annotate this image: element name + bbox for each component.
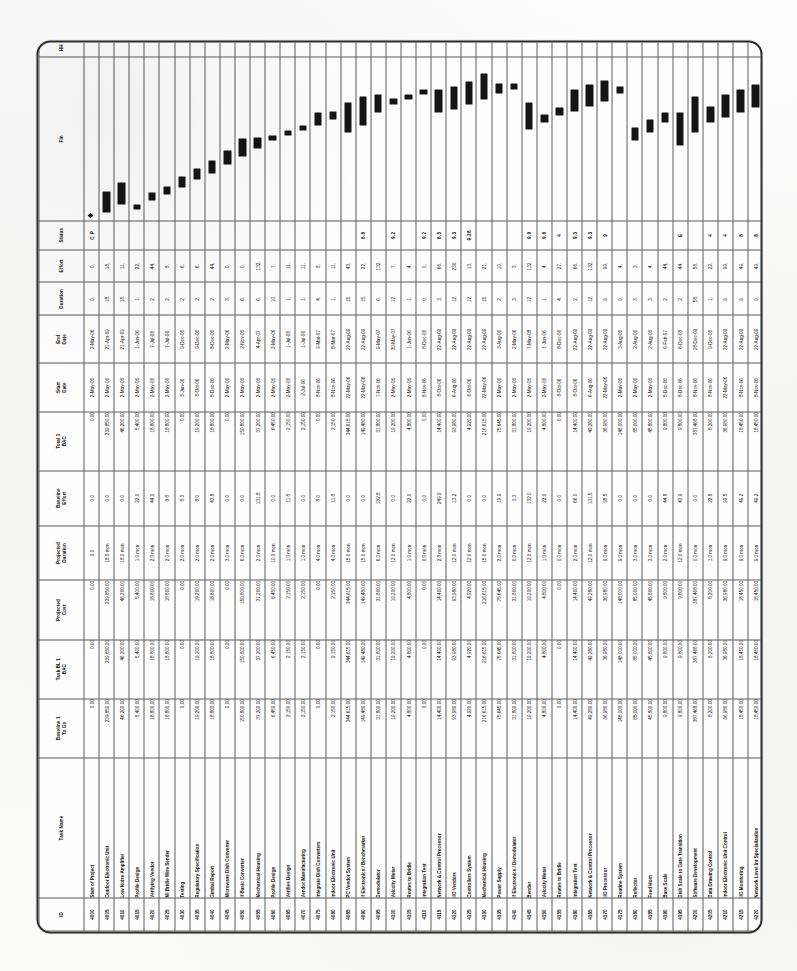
- table-row[interactable]: 4060Profile Design6,450.006,450.006,450.…: [265, 40, 280, 931]
- table-row[interactable]: 4085PC Vendor System344,615.00344,615.00…: [340, 40, 355, 931]
- table-row[interactable]: 4035Regulatory Specification19,200.0019,…: [189, 40, 204, 931]
- gantt-bar[interactable]: [631, 127, 638, 140]
- gantt-bar[interactable]: [102, 191, 109, 212]
- table-row[interactable]: 4205Data Drawing Control8,200.008,200.00…: [702, 40, 717, 931]
- gantt-bar[interactable]: [480, 73, 487, 99]
- table-row[interactable]: 4180Reflector85,000.0085,000.0085,000.00…: [627, 40, 642, 931]
- gantt-cell[interactable]: [702, 56, 717, 220]
- gantt-bar[interactable]: [540, 114, 547, 122]
- gantt-cell[interactable]: [84, 56, 99, 220]
- gantt-cell[interactable]: [461, 56, 476, 220]
- gantt-cell[interactable]: [325, 56, 340, 220]
- gantt-bar[interactable]: [555, 107, 562, 115]
- col-header-effort[interactable]: Effort: [39, 249, 84, 282]
- gantt-bar[interactable]: [208, 160, 215, 173]
- gantt-cell[interactable]: [295, 56, 310, 220]
- gantt-cell[interactable]: [416, 56, 431, 220]
- gantt-bar[interactable]: [404, 94, 411, 99]
- gantt-bar[interactable]: [616, 86, 623, 93]
- col-header-gantt[interactable]: Fin: [39, 56, 84, 220]
- gantt-bar[interactable]: [374, 94, 381, 112]
- table-row[interactable]: 4130Mechanical Housing216,615.00216,615.…: [476, 40, 491, 931]
- gantt-bar[interactable]: [359, 96, 366, 125]
- gantt-cell[interactable]: [476, 56, 491, 220]
- table-row[interactable]: 4020Verifying Vendor18,800.0018,800.0018…: [144, 40, 159, 931]
- gantt-cell[interactable]: [446, 56, 461, 220]
- gantt-cell[interactable]: [657, 56, 672, 220]
- table-row[interactable]: 4195Dish Scale to Gate Transition9,800.0…: [672, 40, 687, 931]
- table-row[interactable]: 4160Integration Test14,400.0014,400.0014…: [567, 40, 582, 931]
- table-row[interactable]: 4090If Electronics / Benchmarker149,480.…: [355, 40, 370, 931]
- gantt-bar[interactable]: [570, 89, 577, 110]
- table-row[interactable]: 4010Low Noise Amplifier46,200.0046,200.0…: [114, 40, 129, 931]
- gantt-bar[interactable]: [706, 106, 713, 122]
- gantt-bar[interactable]: [450, 86, 457, 109]
- table-row[interactable]: 4065Verifies Design2,150.002,150.002,150…: [280, 40, 295, 931]
- gantt-bar[interactable]: [253, 137, 260, 148]
- table-row[interactable]: 4210Indoor Electronic Unit Control36,980…: [717, 40, 732, 931]
- gantt-cell[interactable]: [204, 56, 219, 220]
- table-row[interactable]: 4105Routes to Bridle4,800.004,800.004,80…: [400, 40, 415, 931]
- col-header-id[interactable]: ID: [39, 898, 84, 931]
- table-row[interactable]: 4080Indoor Electronic Unit2,150.002,150.…: [325, 40, 340, 931]
- gantt-cell[interactable]: [234, 56, 249, 220]
- gantt-bar[interactable]: [178, 176, 185, 187]
- table-row[interactable]: 4040Gimbal Report18,800.0018,800.0018,80…: [204, 40, 219, 931]
- col-header-end-date[interactable]: End Date: [39, 315, 84, 363]
- gantt-bar[interactable]: [329, 111, 336, 119]
- gantt-cell[interactable]: [400, 56, 415, 220]
- gantt-cell[interactable]: [265, 56, 280, 220]
- col-header-baseline-effort[interactable]: Baseline Effort: [39, 470, 84, 525]
- table-row[interactable]: 4075Integrate Dish Converters0.000.000.0…: [310, 40, 325, 931]
- col-header-task-bac[interactable]: Task BL 1 BAC: [39, 639, 84, 698]
- gantt-bar[interactable]: [585, 84, 592, 105]
- gantt-cell[interactable]: [340, 56, 355, 220]
- gantt-bar[interactable]: [691, 96, 698, 132]
- gantt-bar[interactable]: [510, 83, 517, 90]
- col-header-status[interactable]: Status: [39, 221, 84, 249]
- gantt-cell[interactable]: [174, 56, 189, 220]
- gantt-bar[interactable]: [299, 125, 306, 130]
- table-row[interactable]: 4050If Basic Converter150,800.00150,800.…: [234, 40, 249, 931]
- gantt-bar[interactable]: [133, 204, 140, 209]
- gantt-cell[interactable]: [491, 56, 506, 220]
- table-row[interactable]: 4070Vendor Manufacturing2,150.002,150.00…: [295, 40, 310, 931]
- gantt-cell[interactable]: [310, 56, 325, 220]
- gantt-bar[interactable]: [344, 102, 351, 131]
- col-header-duration[interactable]: Duration: [39, 282, 84, 315]
- gantt-cell[interactable]: [717, 56, 732, 220]
- table-row[interactable]: 4045Microwave Dish Converter0.000.000.00…: [219, 40, 234, 931]
- gantt-bar[interactable]: [434, 89, 441, 112]
- table-row[interactable]: 4095Demodulator31,800.0031,800.0031,800.…: [370, 40, 385, 931]
- gantt-bar[interactable]: [314, 112, 321, 125]
- table-row[interactable]: 4190Base Scale9,800.009,800.009,800.002.…: [657, 40, 672, 931]
- gantt-cell[interactable]: [582, 56, 597, 220]
- gantt-cell[interactable]: [521, 56, 536, 220]
- table-row[interactable]: 4025Ml Bridle Wire Sender18,800.0018,800…: [159, 40, 174, 931]
- table-row[interactable]: 4215I/O Monitoring18,450.0018,450.0018,4…: [733, 40, 748, 931]
- gantt-bar[interactable]: [465, 81, 472, 104]
- table-row[interactable]: 4150Velocity Meter4,800.004,800.004,800.…: [536, 40, 551, 931]
- gantt-cell[interactable]: [536, 56, 551, 220]
- gantt-bar[interactable]: [646, 119, 653, 132]
- gantt-bar[interactable]: [117, 182, 124, 203]
- gantt-milestone-marker[interactable]: [88, 212, 94, 218]
- table-row[interactable]: 4125Controllers System4,920.004,920.004,…: [461, 40, 476, 931]
- gantt-cell[interactable]: [597, 56, 612, 220]
- gantt-bar[interactable]: [419, 89, 426, 94]
- gantt-cell[interactable]: [612, 56, 627, 220]
- table-row[interactable]: 4055Mechanical Housing37,200.0037,200.00…: [250, 40, 265, 931]
- table-row[interactable]: 4145Bender19,200.0019,200.0019,200.0012.…: [521, 40, 536, 931]
- col-header-baseline-togo[interactable]: Baseline 1 To Go: [39, 698, 84, 757]
- gantt-bar[interactable]: [238, 138, 245, 156]
- gantt-cell[interactable]: [280, 56, 295, 220]
- gantt-bar[interactable]: [193, 168, 200, 179]
- table-row[interactable]: 4155Routes to Bridle0.000.000.000.0 mon0…: [551, 40, 566, 931]
- gantt-cell[interactable]: [642, 56, 657, 220]
- gantt-cell[interactable]: [672, 56, 687, 220]
- table-row[interactable]: 4100Velocity Meter19,200.0019,200.0019,2…: [385, 40, 400, 931]
- gantt-bar[interactable]: [148, 192, 155, 200]
- gantt-bar[interactable]: [495, 83, 502, 93]
- table-row[interactable]: 4015Profile Design5,400.005,400.005,400.…: [129, 40, 144, 931]
- gantt-cell[interactable]: [144, 56, 159, 220]
